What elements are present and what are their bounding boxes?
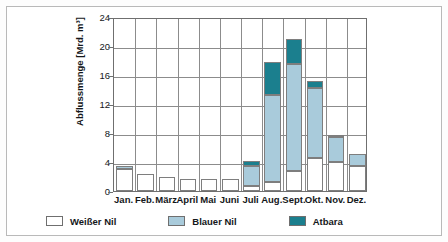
gridline-vertical — [220, 19, 221, 191]
x-tick-label: Jan. — [113, 194, 134, 205]
x-tick-label: April — [177, 194, 198, 205]
x-tick-label: Okt. — [304, 194, 325, 205]
x-tick-label: Sept. — [282, 194, 303, 205]
y-tick-mark — [108, 105, 113, 106]
gridline-vertical — [135, 19, 136, 191]
gridline-horizontal — [114, 106, 366, 107]
y-axis-title-container: Abflussmenge [Mrd. m³] — [60, 10, 84, 190]
gridline-vertical — [347, 19, 348, 191]
plot-area — [113, 18, 367, 192]
y-tick-mark — [108, 47, 113, 48]
bar-segment — [137, 174, 154, 191]
bar-segment — [286, 171, 303, 191]
x-tick-label: Aug. — [261, 194, 282, 205]
gridline-vertical — [178, 19, 179, 191]
legend-label-atbara: Atbara — [313, 216, 343, 227]
bar-segment — [286, 64, 303, 171]
y-axis-title: Abflussmenge [Mrd. m³] — [74, 0, 85, 157]
bar-segment — [222, 179, 239, 191]
bar-juli — [243, 161, 260, 191]
bar-segment — [307, 88, 324, 158]
gridline-vertical — [262, 19, 263, 191]
x-tick-label: Juni — [219, 194, 240, 205]
y-tick-mark — [108, 163, 113, 164]
bar-segment — [264, 95, 281, 182]
bar-märz — [159, 177, 176, 192]
legend-label-weisser-nil: Weißer Nil — [70, 216, 116, 227]
legend-item-blauer-nil: Blauer Nil — [168, 216, 236, 227]
x-tick-label: Feb. — [134, 194, 155, 205]
gridline-vertical — [199, 19, 200, 191]
x-tick-label: Juli — [240, 194, 261, 205]
gridline-vertical — [305, 19, 306, 191]
legend-swatch-weisser-nil — [46, 216, 63, 226]
bar-segment — [328, 162, 345, 191]
bar-segment — [116, 166, 133, 170]
y-axis-tick-labels: 04812162024 — [86, 0, 110, 242]
bar-segment — [243, 161, 260, 166]
bar-segment — [264, 182, 281, 191]
x-axis-tick-labels: Jan.Feb.MärzAprilMaiJuniJuliAug.Sept.Okt… — [113, 194, 367, 208]
bar-segment — [349, 154, 366, 166]
bar-segment — [328, 137, 345, 162]
y-tick-mark — [108, 134, 113, 135]
bar-aug — [264, 62, 281, 191]
bar-okt — [307, 81, 324, 191]
bar-april — [180, 179, 197, 191]
gridline-vertical — [156, 19, 157, 191]
x-tick-label: März — [155, 194, 176, 205]
y-tick-mark — [108, 18, 113, 19]
legend-swatch-atbara — [289, 216, 306, 226]
bar-mai — [201, 179, 218, 191]
bar-segment — [159, 177, 176, 192]
bar-segment — [286, 39, 303, 64]
bar-segment — [307, 81, 324, 88]
gridline-vertical — [283, 19, 284, 191]
gridline-vertical — [326, 19, 327, 191]
bar-segment — [307, 158, 324, 191]
y-tick-mark — [108, 192, 113, 193]
legend-item-atbara: Atbara — [289, 216, 343, 227]
bar-segment — [243, 186, 260, 191]
legend-swatch-blauer-nil — [168, 216, 185, 226]
bar-segment — [328, 135, 345, 137]
chart-legend: Weißer Nil Blauer Nil Atbara — [46, 212, 406, 230]
bar-sept — [286, 39, 303, 191]
gridline-vertical — [241, 19, 242, 191]
gridline-horizontal — [114, 48, 366, 49]
bar-segment — [349, 166, 366, 191]
x-tick-label: Nov. — [325, 194, 346, 205]
bar-segment — [201, 179, 218, 191]
figure-canvas: Abflussmenge [Mrd. m³] 04812162024 Jan.F… — [0, 0, 448, 242]
x-tick-label: Dez. — [346, 194, 367, 205]
y-tick-mark — [108, 76, 113, 77]
bar-dez — [349, 154, 366, 191]
legend-label-blauer-nil: Blauer Nil — [192, 216, 236, 227]
bar-jan — [116, 166, 133, 191]
bar-segment — [116, 169, 133, 191]
x-tick-label: Mai — [198, 194, 219, 205]
bar-segment — [180, 179, 197, 191]
bar-feb — [137, 174, 154, 191]
bar-segment — [243, 166, 260, 186]
bar-juni — [222, 179, 239, 191]
gridline-horizontal — [114, 77, 366, 78]
bar-nov — [328, 135, 345, 191]
bar-segment — [264, 62, 281, 95]
legend-item-weisser-nil: Weißer Nil — [46, 216, 116, 227]
